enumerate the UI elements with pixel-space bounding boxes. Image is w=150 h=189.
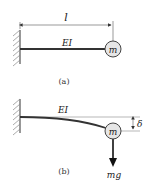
mass-b: m — [105, 123, 121, 139]
mass-label-b: m — [109, 127, 118, 137]
fixed-wall-b — [13, 99, 20, 135]
deflection-dimension: δ — [121, 119, 142, 131]
deflected-beam — [20, 117, 106, 128]
gravity-force: mg — [107, 139, 122, 180]
figure-a: l EI m (a) — [13, 11, 121, 86]
caption-a: (a) — [58, 77, 69, 86]
figure-b: EI δ mg m (b) — [13, 99, 142, 180]
mass-a: m — [105, 41, 121, 57]
length-label: l — [64, 11, 68, 24]
beam-stiffness-label-b: EI — [57, 105, 69, 115]
caption-b: (b) — [58, 167, 69, 176]
fixed-wall-a — [13, 30, 20, 66]
arrow-down-icon — [109, 158, 117, 167]
length-dimension: l — [20, 11, 113, 41]
beam-stiffness-label-a: EI — [61, 38, 73, 48]
cantilever-diagram: l EI m (a) EI — [0, 0, 150, 189]
mass-label-a: m — [109, 45, 118, 55]
deflection-label: δ — [137, 119, 142, 129]
force-label: mg — [107, 170, 122, 180]
